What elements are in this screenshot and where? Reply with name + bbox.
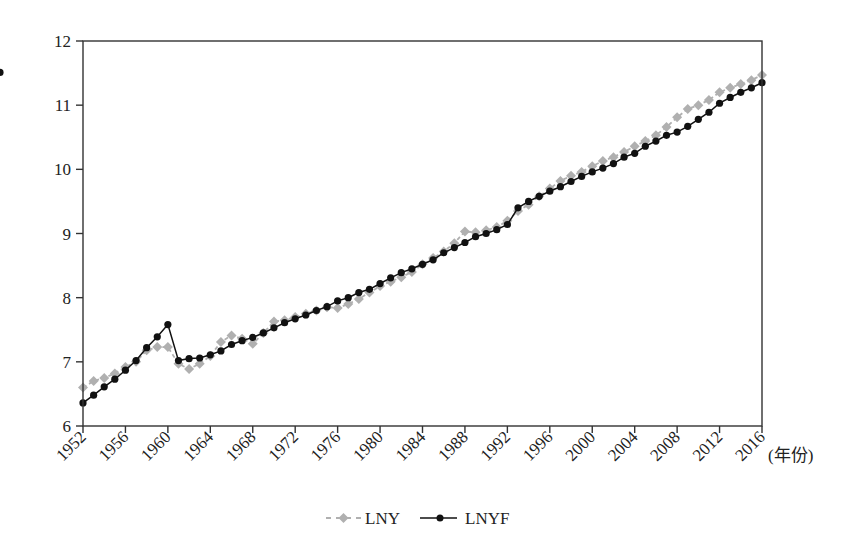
data-point-circle bbox=[334, 297, 341, 304]
data-point-circle bbox=[631, 150, 638, 157]
data-point-circle bbox=[451, 244, 458, 251]
data-point-circle bbox=[122, 367, 129, 374]
data-point-circle bbox=[164, 321, 171, 328]
data-point-circle bbox=[323, 303, 330, 310]
data-point-diamond bbox=[683, 104, 693, 114]
data-point-diamond bbox=[725, 83, 735, 93]
data-point-diamond bbox=[216, 337, 226, 347]
data-point-circle bbox=[589, 168, 596, 175]
data-point-circle bbox=[493, 226, 500, 233]
data-point-circle bbox=[355, 289, 362, 296]
line-chart: 6789101112 19521956196019641968197219761… bbox=[0, 0, 868, 556]
data-point-circle bbox=[557, 183, 564, 190]
data-point-diamond bbox=[693, 100, 703, 110]
data-point-circle bbox=[366, 286, 373, 293]
data-point-circle bbox=[185, 355, 192, 362]
data-point-circle bbox=[0, 69, 4, 76]
legend-item-lnyf: LNYF bbox=[420, 509, 509, 528]
y-tick-label: 9 bbox=[63, 225, 72, 244]
data-point-circle bbox=[642, 143, 649, 150]
legend-label-lnyf: LNYF bbox=[465, 509, 509, 528]
x-tick-label: 1968 bbox=[222, 427, 259, 464]
x-tick-label: 1956 bbox=[95, 427, 132, 464]
series-line bbox=[83, 75, 762, 388]
data-point-diamond bbox=[99, 373, 109, 383]
x-tick-label: 2012 bbox=[689, 427, 726, 464]
series-line bbox=[83, 83, 762, 403]
data-point-circle bbox=[90, 392, 97, 399]
data-point-circle bbox=[175, 357, 182, 364]
data-point-diamond bbox=[736, 79, 746, 89]
data-point-circle bbox=[727, 94, 734, 101]
data-point-circle bbox=[546, 188, 553, 195]
x-tick-label: 1992 bbox=[477, 427, 514, 464]
data-point-circle bbox=[207, 351, 214, 358]
y-tick-label: 8 bbox=[63, 289, 72, 308]
data-point-circle bbox=[228, 341, 235, 348]
x-tick-label: 1960 bbox=[137, 427, 174, 464]
data-point-diamond bbox=[184, 364, 194, 374]
x-tick-label: 1976 bbox=[307, 427, 344, 464]
series-lnyf bbox=[0, 69, 766, 407]
data-point-circle bbox=[748, 84, 755, 91]
data-point-circle bbox=[716, 100, 723, 107]
x-tick-label: 2016 bbox=[731, 427, 768, 464]
data-point-diamond bbox=[89, 376, 99, 386]
data-point-circle bbox=[154, 333, 161, 340]
x-tick-label: 1980 bbox=[349, 427, 386, 464]
data-point-circle bbox=[504, 221, 511, 228]
series-lny bbox=[78, 70, 767, 392]
y-tick-label: 12 bbox=[54, 32, 71, 51]
plot-area bbox=[0, 69, 767, 407]
data-point-circle bbox=[440, 249, 447, 256]
data-point-circle bbox=[302, 311, 309, 318]
data-point-circle bbox=[599, 164, 606, 171]
y-tick-label: 11 bbox=[55, 96, 71, 115]
data-point-circle bbox=[260, 329, 267, 336]
data-point-circle bbox=[292, 315, 299, 322]
data-point-circle bbox=[578, 173, 585, 180]
x-axis: 1952195619601964196819721976198019841988… bbox=[52, 426, 768, 465]
circle-marker-icon bbox=[437, 515, 444, 522]
y-axis: 6789101112 bbox=[54, 32, 83, 436]
data-point-circle bbox=[196, 354, 203, 361]
data-point-diamond bbox=[152, 342, 162, 352]
x-tick-label: 1972 bbox=[265, 427, 302, 464]
data-point-circle bbox=[313, 307, 320, 314]
x-tick-label: 1996 bbox=[519, 427, 556, 464]
data-point-circle bbox=[239, 337, 246, 344]
data-point-diamond bbox=[227, 331, 237, 341]
x-tick-label: 1952 bbox=[52, 427, 89, 464]
data-point-circle bbox=[483, 230, 490, 237]
x-tick-label: 1964 bbox=[180, 427, 218, 465]
data-point-circle bbox=[143, 344, 150, 351]
x-tick-label: 2004 bbox=[604, 427, 642, 465]
x-tick-label: 2008 bbox=[646, 427, 683, 464]
diamond-marker-icon bbox=[339, 513, 349, 523]
legend-label-lny: LNY bbox=[365, 509, 400, 528]
data-point-circle bbox=[663, 132, 670, 139]
data-point-circle bbox=[270, 324, 277, 331]
data-point-circle bbox=[684, 123, 691, 130]
data-point-circle bbox=[525, 198, 532, 205]
data-point-circle bbox=[419, 261, 426, 268]
data-point-circle bbox=[345, 294, 352, 301]
data-point-circle bbox=[705, 109, 712, 116]
x-tick-label: 1988 bbox=[434, 427, 471, 464]
data-point-circle bbox=[695, 116, 702, 123]
data-point-circle bbox=[536, 193, 543, 200]
data-point-circle bbox=[132, 357, 139, 364]
data-point-circle bbox=[387, 274, 394, 281]
data-point-circle bbox=[111, 376, 118, 383]
data-point-circle bbox=[461, 239, 468, 246]
data-point-diamond bbox=[746, 75, 756, 85]
data-point-circle bbox=[249, 334, 256, 341]
data-point-circle bbox=[376, 280, 383, 287]
data-point-circle bbox=[398, 269, 405, 276]
data-point-circle bbox=[652, 138, 659, 145]
data-point-circle bbox=[472, 233, 479, 240]
data-point-circle bbox=[430, 256, 437, 263]
x-tick-label: 1984 bbox=[392, 427, 430, 465]
y-tick-label: 10 bbox=[54, 160, 71, 179]
data-point-diamond bbox=[163, 342, 173, 352]
